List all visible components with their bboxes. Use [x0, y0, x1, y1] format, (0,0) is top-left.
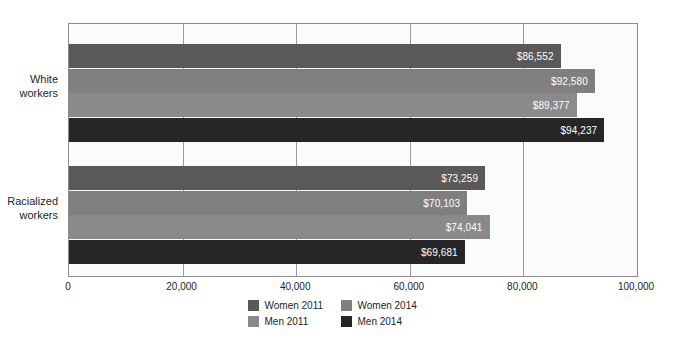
bar-value-label: $70,103 — [423, 198, 467, 209]
legend-item-women-2011: Women 2011 — [248, 300, 341, 311]
legend-label: Men 2014 — [358, 316, 402, 327]
bar-men-2011-racialized: $74,041 — [69, 215, 490, 239]
legend-swatch-icon — [248, 316, 259, 327]
legend-row: Women 2011 Women 2014 — [248, 300, 434, 311]
bar-value-label: $74,041 — [446, 222, 490, 233]
bar-group-racialized-workers: $73,259 $70,103 $74,041 $69,681 — [69, 166, 637, 264]
y-axis-category-line: workers — [0, 208, 58, 222]
y-axis-category-line: workers — [0, 86, 58, 100]
bar-value-label: $73,259 — [441, 173, 485, 184]
bar-men-2011-white: $89,377 — [69, 93, 577, 117]
legend-swatch-icon — [248, 300, 259, 311]
legend-label: Women 2014 — [358, 300, 417, 311]
bar-group-white-workers: $86,552 $92,580 $89,377 $94,237 — [69, 44, 637, 142]
bar-women-2011-racialized: $73,259 — [69, 166, 485, 190]
legend-row: Men 2011 Men 2014 — [248, 316, 434, 327]
bar-men-2014-racialized: $69,681 — [69, 240, 465, 264]
bar-value-label: $69,681 — [421, 247, 465, 258]
plot-inner: $86,552 $92,580 $89,377 $94,237 — [69, 24, 637, 276]
bar-women-2014-racialized: $70,103 — [69, 191, 467, 215]
bar-value-label: $92,580 — [551, 76, 595, 87]
legend-label: Men 2011 — [265, 316, 309, 327]
bar-value-label: $89,377 — [533, 100, 577, 111]
x-axis-tick-label: 80,000 — [507, 281, 538, 292]
gridline — [637, 24, 638, 276]
chart-legend: Women 2011 Women 2014 Men 2011 Men 2014 — [0, 300, 681, 327]
bar-women-2014-white: $92,580 — [69, 69, 595, 93]
bar-men-2014-white: $94,237 — [69, 118, 604, 142]
x-axis-tick-label: 40,000 — [280, 281, 311, 292]
x-axis-tick-label: 0 — [65, 281, 71, 292]
legend-item-women-2014: Women 2014 — [341, 300, 434, 311]
y-axis-category-line: Racialized — [0, 194, 58, 208]
x-axis-tick-label: 100,000 — [618, 281, 654, 292]
bar-value-label: $94,237 — [560, 125, 604, 136]
y-axis-category-racialized-workers: Racialized workers — [0, 194, 58, 222]
legend-item-men-2011: Men 2011 — [248, 316, 341, 327]
bar-value-label: $86,552 — [517, 51, 561, 62]
x-axis-tick-label: 60,000 — [394, 281, 425, 292]
legend-item-men-2014: Men 2014 — [341, 316, 434, 327]
legend-swatch-icon — [341, 316, 352, 327]
plot-area: $86,552 $92,580 $89,377 $94,237 — [68, 23, 638, 277]
y-axis-category-white-workers: White workers — [0, 72, 58, 100]
horizontal-bar-chart: White workers Racialized workers $86,552… — [0, 0, 681, 352]
legend-swatch-icon — [341, 300, 352, 311]
bar-women-2011-white: $86,552 — [69, 44, 561, 68]
y-axis-category-line: White — [0, 72, 58, 86]
x-axis-tick-labels: 020,00040,00060,00080,000100,000 — [68, 281, 638, 297]
legend-label: Women 2011 — [265, 300, 324, 311]
x-axis-tick-label: 20,000 — [166, 281, 197, 292]
